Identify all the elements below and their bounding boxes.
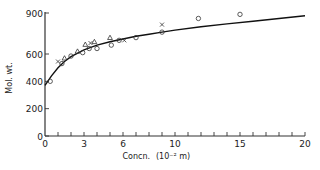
chart: 0200400600900 036101520 Mol. wt. Concn. … [0, 0, 320, 170]
data-point-circle [95, 46, 99, 50]
x-tick-label: 15 [234, 139, 245, 149]
data-point-circle [109, 43, 113, 47]
data-point-triangle [83, 42, 88, 46]
data-point-cross [56, 60, 60, 64]
x-tick-label: 3 [81, 139, 87, 149]
data-point-cross [160, 23, 164, 27]
x-tick-label: 6 [120, 139, 126, 149]
x-tick-label: 20 [299, 139, 311, 149]
y-tick-label: 400 [26, 77, 43, 87]
x-axis-unit: (10⁻² m) [156, 152, 190, 161]
data-point-triangle [62, 56, 67, 60]
x-ticks: 036101520 [42, 132, 311, 149]
data-point-circle [196, 16, 200, 20]
x-axis-label: Concn. [122, 152, 150, 161]
y-tick-label: 600 [26, 50, 43, 60]
data-point-circle [238, 12, 242, 16]
data-point-triangle [108, 35, 113, 39]
y-tick-label: 900 [26, 9, 43, 19]
points-layer [48, 12, 242, 83]
y-axis-label: Mol. wt. [5, 62, 14, 93]
x-tick-label: 10 [169, 139, 181, 149]
y-tick-label: 200 [26, 104, 43, 114]
data-point-triangle [92, 39, 97, 43]
x-tick-label: 0 [42, 139, 48, 149]
